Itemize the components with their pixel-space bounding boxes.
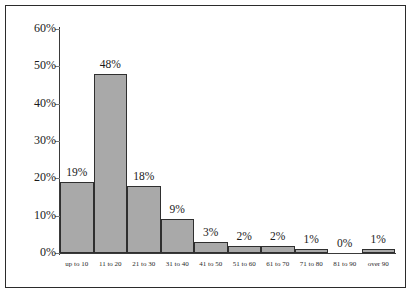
bar xyxy=(60,182,94,253)
x-axis-tick-label: 71 to 80 xyxy=(295,259,329,269)
chart-frame: 0%10%20%30%40%50%60% up to 1011 to 2021 … xyxy=(5,5,406,288)
bar-value-label: 3% xyxy=(194,226,228,239)
bar-value-label: 18% xyxy=(127,170,161,183)
bar-value-label: 0% xyxy=(328,237,362,250)
x-axis-tick-label: 21 to 30 xyxy=(127,259,161,269)
bar xyxy=(127,186,161,253)
bar xyxy=(94,74,128,253)
bar xyxy=(261,246,295,253)
x-axis-tick-label: 11 to 20 xyxy=(94,259,128,269)
bar-value-label: 9% xyxy=(161,203,195,216)
y-axis-tick-label: 20% xyxy=(12,170,56,185)
x-axis-tick-label: 31 to 40 xyxy=(161,259,195,269)
y-axis-tick-label: 60% xyxy=(12,21,56,36)
x-axis-line xyxy=(59,253,396,254)
x-axis-tick-label: 51 to 60 xyxy=(228,259,262,269)
x-axis-tick-label: 41 to 50 xyxy=(194,259,228,269)
bar xyxy=(362,249,396,253)
bar-value-label: 2% xyxy=(261,230,295,243)
bar xyxy=(194,242,228,253)
y-axis-tick-label: 40% xyxy=(12,96,56,111)
y-axis-tick-label: 0% xyxy=(12,245,56,260)
x-axis-tick-label: 81 to 90 xyxy=(328,259,362,269)
x-axis-tick-label: up to 10 xyxy=(60,259,94,269)
y-axis-tick-label: 30% xyxy=(12,133,56,148)
y-axis-tick-label: 10% xyxy=(12,208,56,223)
bar xyxy=(295,249,329,253)
bar-value-label: 2% xyxy=(228,230,262,243)
x-axis-tick-label: over 90 xyxy=(362,259,396,269)
bar-value-label: 19% xyxy=(60,166,94,179)
x-axis-tick-label: 61 to 70 xyxy=(261,259,295,269)
bar xyxy=(228,246,262,253)
bar-value-label: 48% xyxy=(94,58,128,71)
bar-value-label: 1% xyxy=(362,233,396,246)
y-axis-tick-label: 50% xyxy=(12,58,56,73)
bar-value-label: 1% xyxy=(295,233,329,246)
bar xyxy=(161,219,195,253)
